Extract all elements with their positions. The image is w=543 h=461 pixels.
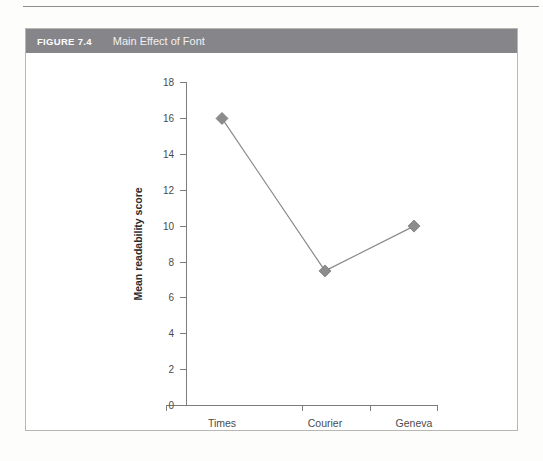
data-point-markers: [216, 112, 420, 277]
y-axis-tick-labels: 18 16 14 12 10 8 6 4 2 0: [163, 77, 175, 411]
x-tick-label-courier: Courier: [308, 417, 343, 429]
y-tick-label: 18: [163, 77, 175, 88]
x-tick-label-geneva: Geneva: [396, 417, 433, 429]
y-tick-label: 6: [168, 292, 174, 303]
y-tick-label: 14: [163, 149, 175, 160]
y-tick-label: 0: [168, 400, 174, 411]
data-series-line: [222, 118, 414, 271]
chart-svg: 18 16 14 12 10 8 6 4 2 0 Mean readabilit…: [26, 53, 519, 432]
x-tick-label-times: Times: [208, 417, 236, 429]
figure-header-bar: FIGURE 7.4 Main Effect of Font: [26, 29, 517, 53]
y-axis-ticks: [180, 83, 186, 406]
y-axis-title: Mean readability score: [132, 187, 144, 300]
figure-container: FIGURE 7.4 Main Effect of Font: [25, 28, 518, 431]
data-point-courier: [319, 265, 331, 277]
plot-panel: 18 16 14 12 10 8 6 4 2 0 Mean readabilit…: [26, 53, 517, 430]
y-tick-label: 10: [163, 221, 175, 232]
y-tick-label: 16: [163, 113, 175, 124]
x-axis-category-labels: Times Courier Geneva: [208, 417, 433, 429]
y-tick-label: 8: [168, 257, 174, 268]
data-point-times: [216, 112, 228, 124]
data-point-geneva: [408, 220, 420, 232]
y-tick-label: 2: [168, 364, 174, 375]
figure-number-label: FIGURE 7.4: [37, 36, 92, 47]
line-chart: 18 16 14 12 10 8 6 4 2 0 Mean readabilit…: [26, 53, 519, 432]
page-top-rule: [23, 6, 539, 7]
page-canvas: FIGURE 7.4 Main Effect of Font: [0, 0, 543, 461]
y-tick-label: 4: [168, 328, 174, 339]
y-tick-label: 12: [163, 185, 175, 196]
figure-title: Main Effect of Font: [113, 35, 205, 47]
